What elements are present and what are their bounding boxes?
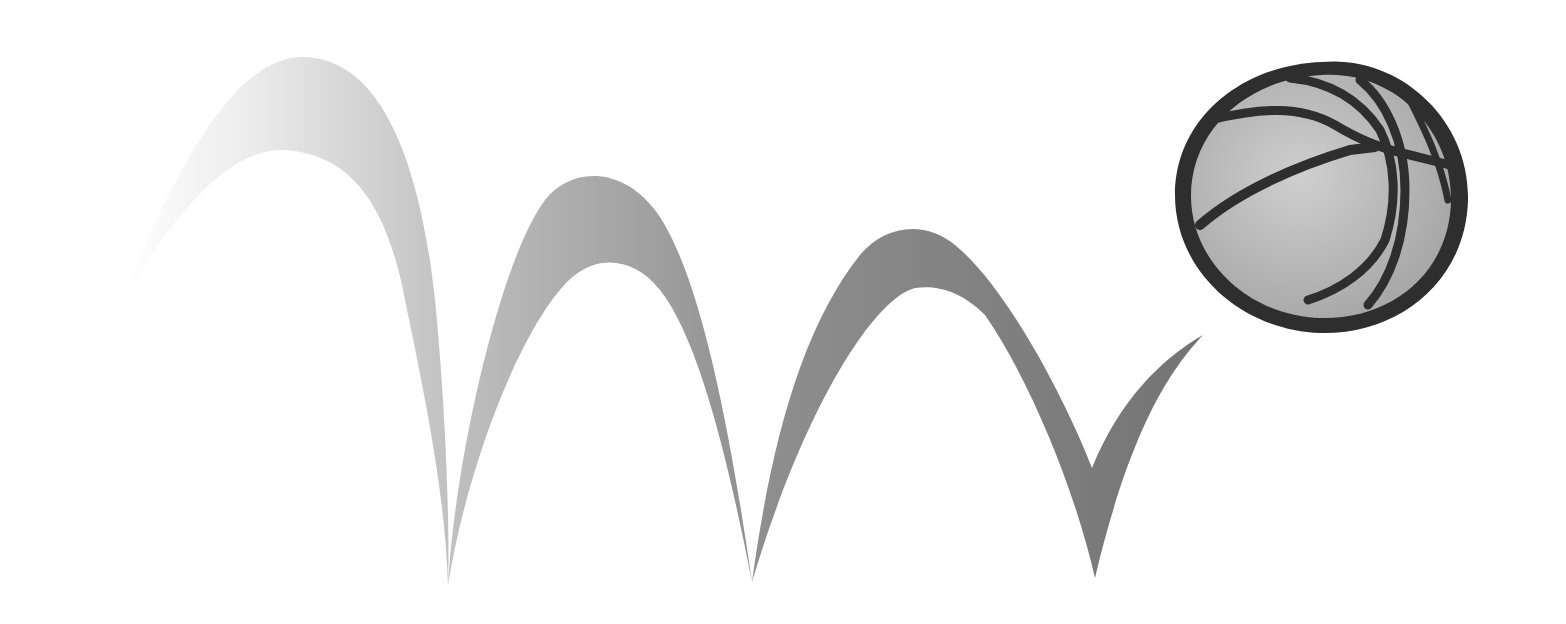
trail-arc-1 — [120, 57, 448, 585]
bounce-trail — [120, 57, 1203, 585]
trail-arc-2 — [448, 176, 752, 585]
basketball — [1175, 61, 1468, 333]
trail-arc-3 — [752, 229, 1203, 582]
illustration-canvas: Illustration of a basketball bouncing, w… — [0, 0, 1566, 624]
